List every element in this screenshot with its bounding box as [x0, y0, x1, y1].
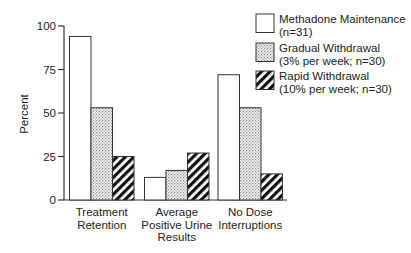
y-tick-label: 75 [43, 64, 56, 76]
legend [256, 14, 274, 90]
legend-swatch-hatch [256, 71, 274, 90]
category-label: Results [158, 231, 197, 243]
y-axis-label: Percent [18, 93, 30, 133]
bar-chart: 0255075100 TreatmentRetentionAveragePosi… [0, 0, 411, 253]
bars [70, 36, 283, 200]
bar-hatch [188, 153, 210, 200]
category-label: Positive Urine [141, 219, 212, 231]
legend-label: Gradual Withdrawal(3% per week; n=30) [279, 42, 385, 68]
bar-white [145, 177, 167, 200]
y-tick-label: 0 [50, 194, 56, 206]
bar-stipple [166, 170, 188, 200]
legend-swatch-stipple [256, 43, 274, 62]
legend-label: Methadone Maintenance(n=31) [279, 13, 406, 39]
category-label: Treatment [76, 206, 129, 218]
bar-white [218, 75, 240, 200]
legend-swatch-white [256, 14, 274, 33]
category-label: No Dose [228, 206, 273, 218]
y-tick-label: 25 [43, 151, 56, 163]
y-tick-label: 50 [43, 107, 56, 119]
bar-hatch [113, 157, 135, 201]
y-tick-label: 100 [37, 20, 56, 32]
bar-stipple [240, 108, 262, 200]
x-axis-labels: TreatmentRetentionAveragePositive UrineR… [76, 206, 283, 243]
bar-stipple [91, 108, 113, 200]
bar-white [70, 36, 92, 200]
category-label: Interruptions [218, 219, 282, 231]
legend-label: Rapid Withdrawal(10% per week; n=30) [279, 70, 392, 96]
category-label: Retention [77, 219, 126, 231]
category-label: Average [155, 206, 198, 218]
bar-hatch [261, 174, 283, 200]
